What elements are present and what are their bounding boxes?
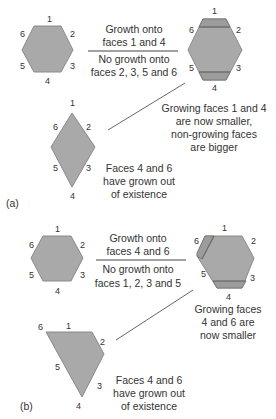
intermediate-caption-line-3: now smaller: [200, 329, 257, 341]
face-label-3: 3: [250, 273, 255, 283]
final-caption-line-2: have grown out: [113, 387, 185, 399]
final-caption-line-3: of existence: [111, 188, 167, 200]
face-label-6: 6: [189, 25, 194, 35]
face-label-4: 4: [55, 286, 60, 296]
part-a-label: (a): [6, 197, 19, 209]
face-label-2: 2: [86, 122, 91, 132]
face-label-1: 1: [212, 6, 217, 16]
part-b-label: (b): [20, 400, 33, 412]
face-label-1: 1: [66, 321, 71, 331]
face-label-6: 6: [194, 236, 199, 246]
face-label-3: 3: [80, 270, 85, 280]
face-label-3: 3: [97, 381, 102, 391]
part-a-intermediate-crystal: 1 2 3 4 5 6 Growing faces 1 and 4 are no…: [161, 6, 266, 153]
face-label-5: 5: [55, 362, 60, 372]
intermediate-caption-line-2: are now smaller,: [176, 115, 252, 127]
face-label-4: 4: [76, 401, 81, 411]
intermediate-caption-line-1: Growing faces: [194, 303, 261, 315]
face-label-5: 5: [189, 63, 194, 73]
part-b-initial-crystal: 1 2 3 4 5 6: [29, 224, 85, 296]
final-caption-line-2: have grown out: [103, 175, 175, 187]
face-label-3: 3: [236, 63, 241, 73]
face-label-6: 6: [20, 29, 25, 39]
face-label-5: 5: [201, 269, 206, 279]
face-label-4: 4: [212, 83, 217, 93]
face-label-5: 5: [53, 163, 58, 173]
part-a-initial-crystal: 1 2 3 4 5 6: [20, 14, 75, 86]
face-label-5: 5: [29, 270, 34, 280]
intermediate-caption-line-1: Growing faces 1 and 4: [161, 102, 266, 114]
growth-layer-face-1: [199, 19, 230, 27]
part-a: 1 2 3 4 5 6 Growth onto faces 1 and 4 No…: [6, 6, 267, 209]
connector-line: [116, 290, 193, 340]
part-b: 1 2 3 4 5 6 Growth onto faces 4 and 6 No…: [20, 223, 262, 412]
face-label-4: 4: [226, 292, 231, 302]
face-label-5: 5: [20, 61, 25, 71]
face-label-3: 3: [86, 163, 91, 173]
crystal-growth-diagram: 1 2 3 4 5 6 Growth onto faces 1 and 4 No…: [0, 0, 276, 419]
no-growth-text-line-1: No growth onto: [102, 263, 173, 275]
growth-layer-face-4: [199, 72, 230, 80]
intermediate-caption-line-2: 4 and 6 are: [201, 316, 254, 328]
face-label-6: 6: [53, 122, 58, 132]
part-a-final-crystal: 1 2 3 4 5 6 Faces 4 and 6 have grown out…: [51, 98, 175, 201]
no-growth-text-line-2: faces 1, 2, 3 and 5: [95, 277, 182, 289]
face-label-4: 4: [70, 191, 75, 201]
growth-layer-face-4: [213, 281, 246, 288]
grown-hexagon-shape: [188, 19, 242, 80]
final-caption-line-1: Faces 4 and 6: [106, 162, 173, 174]
intermediate-caption-line-3: non-growing faces: [171, 128, 257, 140]
face-label-1: 1: [55, 224, 60, 234]
no-growth-text-line-1: No growth onto: [98, 53, 169, 65]
hexagon-shape: [31, 236, 83, 281]
face-label-2: 2: [80, 240, 85, 250]
part-a-growth-condition: Growth onto faces 1 and 4 No growth onto…: [88, 23, 178, 78]
face-label-2: 2: [251, 236, 256, 246]
face-label-6: 6: [38, 322, 43, 332]
growth-text-line-1: Growth onto: [109, 232, 166, 244]
part-b-growth-condition: Growth onto faces 4 and 6 No growth onto…: [95, 232, 186, 289]
face-label-4: 4: [45, 76, 50, 86]
growth-text-line-2: faces 1 and 4: [102, 36, 165, 48]
face-label-1: 1: [70, 98, 75, 108]
face-label-2: 2: [236, 25, 241, 35]
face-label-2: 2: [70, 29, 75, 39]
part-b-intermediate-crystal: 1 2 3 4 5 6 Growing faces 4 and 6 are no…: [194, 223, 262, 341]
face-label-2: 2: [100, 337, 105, 347]
growth-text-line-2: faces 4 and 6: [106, 245, 169, 257]
part-b-final-crystal: 1 2 3 4 5 6 Faces 4 and 6 have grown out…: [38, 321, 185, 412]
intermediate-caption-line-4: are bigger: [190, 141, 238, 153]
no-growth-text-line-2: faces 2, 3, 5 and 6: [91, 66, 178, 78]
face-label-3: 3: [70, 61, 75, 71]
face-label-1: 1: [222, 223, 227, 233]
face-label-1: 1: [47, 14, 52, 24]
growth-text-line-1: Growth onto: [105, 23, 162, 35]
face-label-6: 6: [29, 240, 34, 250]
final-caption-line-3: of existence: [121, 400, 177, 412]
final-caption-line-1: Faces 4 and 6: [116, 374, 183, 386]
hexagon-shape: [22, 26, 73, 72]
